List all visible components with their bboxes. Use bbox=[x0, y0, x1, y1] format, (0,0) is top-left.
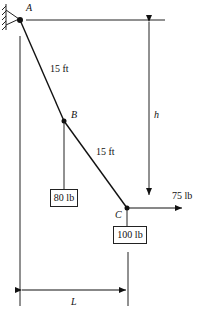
joint-a-icon bbox=[17, 17, 23, 23]
diagram-lines bbox=[0, 0, 197, 322]
joint-c-icon bbox=[125, 206, 130, 211]
segment-bc-length: 15 ft bbox=[96, 147, 115, 157]
dimension-l-label: L bbox=[71, 297, 77, 307]
segment-ab-length: 15 ft bbox=[50, 64, 69, 74]
point-label-b: B bbox=[71, 110, 77, 120]
point-label-c: C bbox=[115, 210, 122, 220]
joint-b-icon bbox=[62, 119, 67, 124]
point-label-a: A bbox=[26, 3, 32, 13]
weight-box-b: 80 lb bbox=[50, 189, 78, 207]
dimension-h-label: h bbox=[154, 110, 159, 120]
wall-support-icon bbox=[2, 4, 19, 30]
horizontal-force-label: 75 lb bbox=[172, 191, 192, 201]
statics-diagram: A 15 ft B 15 ft h 75 lb C 80 lb 100 lb L bbox=[0, 0, 197, 322]
weight-box-c: 100 lb bbox=[113, 226, 147, 244]
